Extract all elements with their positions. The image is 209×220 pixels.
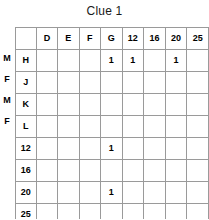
gender-marker-j: F [0,69,14,90]
cell-25-f[interactable] [79,204,100,220]
cell-k-20[interactable] [165,94,187,116]
page-title: Clue 1 [0,4,209,18]
cell-25-g[interactable] [101,204,123,220]
cell-j-e[interactable] [58,72,79,94]
cell-j-25[interactable] [187,72,209,94]
row-header-16: 16 [16,160,37,182]
column-header-f: F [79,28,100,50]
grid-notch [165,204,187,220]
cell-l-g[interactable] [101,116,123,138]
cell-l-d[interactable] [36,116,57,138]
cell-k-e[interactable] [58,94,79,116]
grid-notch [144,138,166,160]
cell-l-16[interactable] [144,116,166,138]
cell-20-e[interactable] [58,182,79,204]
cell-20-f[interactable] [79,182,100,204]
column-header-25: 25 [187,28,209,50]
grid-notch [144,204,166,220]
column-header-e: E [58,28,79,50]
row-header-25: 25 [16,204,37,220]
cell-j-20[interactable] [165,72,187,94]
row-header-h: H [16,50,37,72]
grid-notch [122,160,144,182]
column-header-12: 12 [122,28,144,50]
cell-12-g[interactable]: 1 [101,138,123,160]
cell-h-g[interactable]: 1 [101,50,123,72]
grid-container: D E F G 12 16 20 25 H 1 1 1 [15,27,209,219]
cell-16-e[interactable] [58,160,79,182]
cell-k-g[interactable] [101,94,123,116]
cell-l-25[interactable] [187,116,209,138]
cell-j-12[interactable] [122,72,144,94]
gender-marker-column: M F M F [0,27,14,132]
cell-12-e[interactable] [58,138,79,160]
column-header-16: 16 [144,28,166,50]
cell-h-f[interactable] [79,50,100,72]
cell-h-d[interactable] [36,50,57,72]
cell-16-d[interactable] [36,160,57,182]
cell-h-12[interactable]: 1 [122,50,144,72]
column-header-g: G [101,28,123,50]
table-row: L [16,116,209,138]
grid-corner-cell [16,28,37,50]
cell-k-16[interactable] [144,94,166,116]
gender-marker-l: F [0,111,14,132]
cell-h-25[interactable] [187,50,209,72]
cell-k-f[interactable] [79,94,100,116]
column-header-20: 20 [165,28,187,50]
logic-puzzle-diagram: Clue 1 M F M F D E F G 12 16 20 25 [0,0,209,219]
table-row: K [16,94,209,116]
cell-12-f[interactable] [79,138,100,160]
table-header-row: D E F G 12 16 20 25 [16,28,209,50]
cell-l-20[interactable] [165,116,187,138]
gender-header-spacer [0,27,14,48]
grid-notch [144,160,166,182]
cell-l-f[interactable] [79,116,100,138]
grid-notch [122,182,144,204]
row-header-12: 12 [16,138,37,160]
table-row: 16 [16,160,209,182]
grid-notch [165,182,187,204]
grid-notch [187,182,209,204]
cell-k-25[interactable] [187,94,209,116]
grid-notch [165,138,187,160]
grid-notch [187,138,209,160]
cell-20-d[interactable] [36,182,57,204]
table-row: J [16,72,209,94]
cell-j-d[interactable] [36,72,57,94]
cell-k-12[interactable] [122,94,144,116]
grid-notch [122,204,144,220]
grid-notch [187,204,209,220]
cell-h-20[interactable]: 1 [165,50,187,72]
cell-20-g[interactable]: 1 [101,182,123,204]
table-row: 20 1 [16,182,209,204]
table-row: H 1 1 1 [16,50,209,72]
cell-k-d[interactable] [36,94,57,116]
grid-notch [144,182,166,204]
grid-notch [187,160,209,182]
cell-l-12[interactable] [122,116,144,138]
cell-16-g[interactable] [101,160,123,182]
row-header-l: L [16,116,37,138]
grid-notch [165,160,187,182]
row-header-k: K [16,94,37,116]
column-header-d: D [36,28,57,50]
table-row: 12 1 [16,138,209,160]
cell-l-e[interactable] [58,116,79,138]
grid-notch [122,138,144,160]
row-header-j: J [16,72,37,94]
table-row: 25 [16,204,209,220]
cell-j-16[interactable] [144,72,166,94]
cell-12-d[interactable] [36,138,57,160]
cell-h-e[interactable] [58,50,79,72]
gender-marker-h: M [0,48,14,69]
cell-25-d[interactable] [36,204,57,220]
cell-h-16[interactable] [144,50,166,72]
logic-grid-table: D E F G 12 16 20 25 H 1 1 1 [15,27,209,219]
gender-marker-k: M [0,90,14,111]
cell-j-f[interactable] [79,72,100,94]
cell-25-e[interactable] [58,204,79,220]
cell-j-g[interactable] [101,72,123,94]
row-header-20: 20 [16,182,37,204]
cell-16-f[interactable] [79,160,100,182]
